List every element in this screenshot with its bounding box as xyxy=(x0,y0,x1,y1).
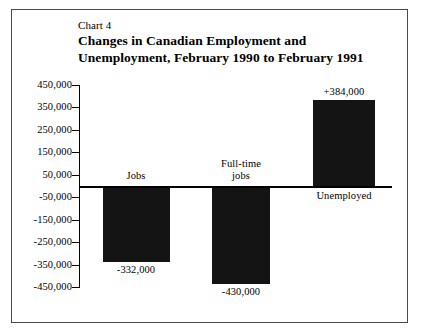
y-tick-minus250000: -250,000 xyxy=(8,236,72,247)
y-tick-450000: 450,000 xyxy=(8,79,72,90)
y-tick-label: 50,000 xyxy=(12,169,72,180)
bar-unemployed xyxy=(313,100,375,186)
y-tick-250000: 250,000 xyxy=(8,124,72,135)
y-tick-minus350000: -350,000 xyxy=(8,259,72,270)
y-tick-mark xyxy=(72,152,79,153)
y-tick-mark xyxy=(72,107,79,108)
bar-value-jobs: -332,000 xyxy=(96,264,176,276)
bar-value-full-time-jobs: -430,000 xyxy=(201,286,281,298)
y-tick-label: 250,000 xyxy=(12,124,72,135)
y-tick-label: 450,000 xyxy=(12,79,72,90)
bar-jobs xyxy=(103,188,170,262)
bar-category-unemployed: Unemployed xyxy=(304,190,384,202)
chart-figure: Chart 4 Changes in Canadian Employment a… xyxy=(0,0,422,333)
y-tick-350000: 350,000 xyxy=(8,101,72,112)
bar-category-jobs: Jobs xyxy=(96,170,176,182)
y-tick-mark xyxy=(72,197,79,198)
y-tick-label: 150,000 xyxy=(12,146,72,157)
zero-baseline xyxy=(79,186,392,188)
y-tick-mark xyxy=(72,130,79,131)
bar-category-full-time-jobs: Full-time xyxy=(201,158,281,170)
y-tick-mark xyxy=(72,287,79,288)
y-tick-150000: 150,000 xyxy=(8,146,72,157)
y-tick-minus150000: -150,000 xyxy=(8,214,72,225)
y-tick-label: -250,000 xyxy=(12,236,72,247)
y-tick-minus50000: -50,000 xyxy=(8,191,72,202)
y-tick-label: -450,000 xyxy=(12,281,72,292)
bar-category-full-time-jobs-line2: jobs xyxy=(201,170,281,182)
y-tick-label: -350,000 xyxy=(12,259,72,270)
y-tick-mark xyxy=(72,242,79,243)
plot-area: 450,000 350,000 250,000 150,000 50,000 -… xyxy=(0,0,422,333)
y-tick-label: 350,000 xyxy=(12,101,72,112)
bar-full-time-jobs xyxy=(212,188,270,284)
y-tick-50000: 50,000 xyxy=(8,169,72,180)
y-tick-mark xyxy=(72,265,79,266)
y-tick-mark xyxy=(72,220,79,221)
bar-value-unemployed: +384,000 xyxy=(304,86,384,98)
y-tick-label: -150,000 xyxy=(12,214,72,225)
y-tick-label: -50,000 xyxy=(12,191,72,202)
y-tick-mark xyxy=(72,175,79,176)
y-tick-minus450000: -450,000 xyxy=(8,281,72,292)
y-tick-mark xyxy=(72,85,79,86)
